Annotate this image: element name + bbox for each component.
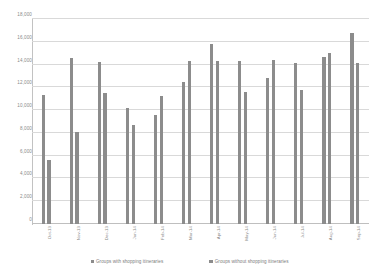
chart-legend: Groups with shopping itinerariesGroups w… [0, 259, 379, 264]
y-axis-tick-label: 4,000 [0, 171, 32, 176]
x-axis-tick-label: Nov-13 [76, 226, 81, 240]
x-axis-tick-label: Dec-13 [104, 226, 109, 240]
y-axis-tick-label: 16,000 [0, 34, 32, 39]
y-axis-tick-label: 6,000 [0, 148, 32, 153]
x-axis-tick-label: Jan-14 [132, 226, 137, 239]
legend-item-label: Groups without shopping itineraries [215, 259, 289, 264]
y-axis-tick-label: 2,000 [0, 194, 32, 199]
x-axis-tick-label: May-14 [244, 226, 249, 241]
square-marker-icon [209, 260, 213, 264]
x-axis-tick-label: Sep-14 [356, 226, 361, 240]
y-axis-tick-label: 14,000 [0, 57, 32, 62]
legend-item[interactable]: Groups without shopping itineraries [209, 259, 288, 264]
x-axis-tick-labels: Oct-13Nov-13Dec-13Jan-14Feb-14Mar-14Apr-… [32, 226, 369, 252]
square-marker-icon [91, 260, 95, 264]
x-axis-tick-label: Apr-14 [216, 226, 221, 239]
y-axis-tick-label: 10,000 [0, 103, 32, 108]
bar-chart: 02,0004,0006,0008,00010,00012,00014,0001… [0, 0, 379, 278]
x-axis-tick-label: Mar-14 [188, 226, 193, 240]
y-axis-tick-label: 18,000 [0, 12, 32, 17]
x-axis-tick-label: Oct-13 [47, 226, 52, 239]
x-axis-tick-label: Feb-14 [160, 226, 165, 240]
x-axis-tick-label: Aug-14 [328, 226, 333, 240]
x-axis-tick-label: Jul-14 [300, 226, 305, 238]
x-axis-tick-label: Jun-14 [272, 226, 277, 239]
y-axis-tick-label: 0 [0, 217, 32, 222]
y-axis-tick-label: 8,000 [0, 125, 32, 130]
legend-item[interactable]: Groups with shopping itineraries [91, 259, 164, 264]
y-axis-tick-labels: 02,0004,0006,0008,00010,00012,00014,0001… [0, 19, 372, 224]
legend-item-label: Groups with shopping itineraries [96, 259, 163, 264]
y-axis-tick-label: 12,000 [0, 80, 32, 85]
